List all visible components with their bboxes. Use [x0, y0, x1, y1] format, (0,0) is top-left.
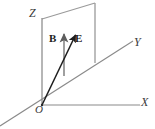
vector-field-diagram: Z Y X O B E — [0, 0, 155, 129]
vector-b-label: B — [49, 33, 56, 44]
diagram-canvas — [0, 0, 155, 129]
z-axis-label: Z — [29, 7, 36, 19]
y-axis-label: Y — [134, 36, 141, 48]
x-axis-label: X — [141, 96, 148, 108]
plane-top-edge — [42, 3, 95, 19]
vector-e-arrow — [42, 35, 76, 105]
vector-e-label: E — [75, 33, 82, 44]
origin-label: O — [35, 104, 43, 115]
